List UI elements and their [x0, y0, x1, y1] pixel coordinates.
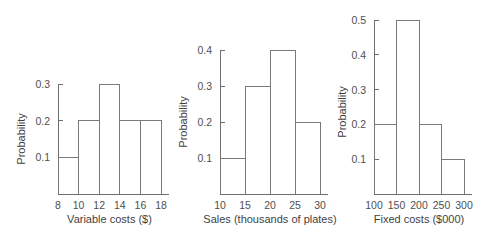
y-axis-title: Probability [336, 86, 348, 138]
x-axis-title: Variable costs ($) [67, 213, 152, 225]
variable-costs-histogram: 0.10.20.381012141618Variable costs ($)Pr… [0, 0, 180, 236]
x-tick-label: 30 [314, 199, 326, 211]
x-tick-label: 250 [433, 199, 451, 211]
y-tick-label: 0.2 [197, 116, 212, 128]
y-tick-label: 0.2 [35, 115, 50, 127]
histogram-bars [58, 84, 161, 194]
y-axis-title: Probability [177, 96, 189, 148]
x-axis-title: Sales (thousands of plates) [203, 213, 336, 225]
x-tick-label: 10 [73, 199, 85, 211]
y-tick-label: 0.4 [351, 49, 366, 61]
x-tick-label: 15 [239, 199, 251, 211]
x-tick-label: 25 [289, 199, 301, 211]
x-tick-label: 300 [455, 199, 473, 211]
y-tick-label: 0.1 [197, 152, 212, 164]
y-tick-label: 0.1 [35, 151, 50, 163]
chart-panel-fixed-costs: 0.10.20.30.40.5100150200250300Fixed cost… [336, 0, 481, 236]
x-tick-label: 8 [55, 199, 61, 211]
y-tick-label: 0.1 [351, 153, 366, 165]
x-tick-label: 12 [93, 199, 105, 211]
x-tick-label: 10 [214, 199, 226, 211]
chart-panel-variable-costs: 0.10.20.381012141618Variable costs ($)Pr… [0, 0, 180, 236]
y-tick-label: 0.2 [351, 118, 366, 130]
histogram-bars [220, 50, 320, 194]
x-tick-label: 20 [264, 199, 276, 211]
histogram-bars [374, 20, 464, 194]
y-tick-label: 0.3 [35, 78, 50, 90]
chart-panel-sales: 0.10.20.30.41015202530Sales (thousands o… [170, 0, 345, 236]
x-tick-label: 16 [135, 199, 147, 211]
x-tick-label: 18 [155, 199, 167, 211]
y-axis-title: Probability [15, 113, 27, 165]
x-tick-label: 14 [114, 199, 126, 211]
y-tick-label: 0.3 [197, 80, 212, 92]
x-tick-label: 100 [365, 199, 383, 211]
y-tick-label: 0.4 [197, 44, 212, 56]
x-axis-title: Fixed costs ($000) [374, 213, 464, 225]
fixed-costs-histogram: 0.10.20.30.40.5100150200250300Fixed cost… [336, 0, 481, 236]
y-tick-label: 0.3 [351, 84, 366, 96]
sales-histogram: 0.10.20.30.41015202530Sales (thousands o… [170, 0, 345, 236]
x-tick-label: 200 [410, 199, 428, 211]
x-tick-label: 150 [388, 199, 406, 211]
histogram-figure: 0.10.20.381012141618Variable costs ($)Pr… [0, 0, 481, 236]
y-tick-label: 0.5 [351, 14, 366, 26]
